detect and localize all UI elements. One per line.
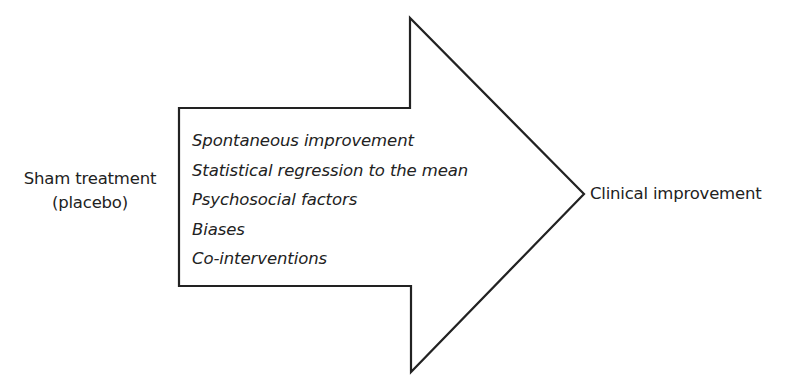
factors-list: Spontaneous improvement Statistical regr… [192,126,468,274]
input-label-line1: Sham treatment [8,167,172,191]
diagram-canvas: Sham treatment (placebo) Spontaneous imp… [0,0,804,385]
factor-item: Statistical regression to the mean [192,156,468,186]
factor-item: Psychosocial factors [192,185,468,215]
input-label-line2: (placebo) [8,191,172,215]
factor-item: Spontaneous improvement [192,126,468,156]
output-label-clinical-improvement: Clinical improvement [590,182,761,206]
factor-item: Biases [192,215,468,245]
factor-item: Co-interventions [192,244,468,274]
input-label-sham-treatment: Sham treatment (placebo) [8,167,172,215]
